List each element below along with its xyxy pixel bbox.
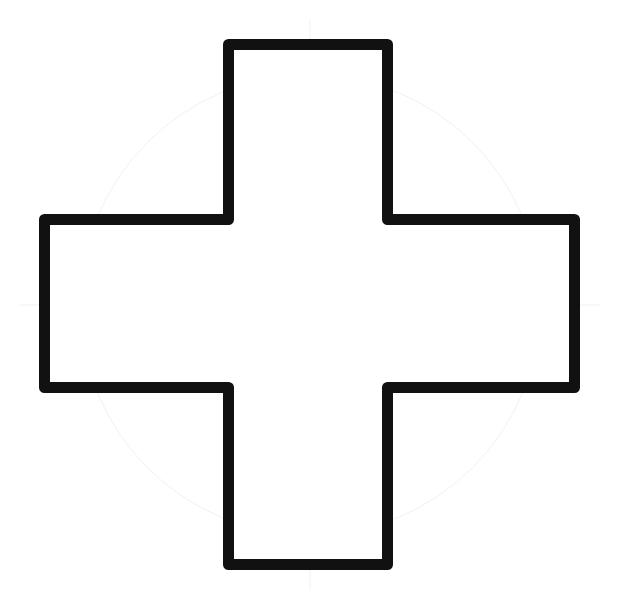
cross-diagram bbox=[0, 0, 619, 592]
